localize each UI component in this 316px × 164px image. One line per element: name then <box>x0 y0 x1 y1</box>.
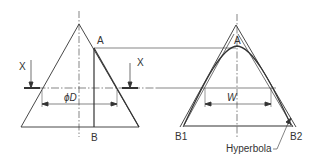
hyperbola-curve <box>184 46 291 125</box>
label-x-right: X <box>137 57 144 68</box>
diameter-arrow-right <box>111 102 117 106</box>
width-arrow-right <box>265 102 271 106</box>
width-arrow-left <box>205 102 211 106</box>
label-b-left: B <box>91 132 98 143</box>
label-diameter: ϕD <box>64 92 77 103</box>
label-a-left: A <box>97 35 104 46</box>
hyperbola-leader <box>273 121 289 149</box>
right-labels: A B1 B2 W Hyperbola <box>175 35 303 154</box>
label-width: W <box>227 92 238 103</box>
left-view <box>21 11 276 137</box>
cone-hyperbola-diagram: A B X X ϕD A B1 B2 W Hyperbola <box>0 0 316 164</box>
left-cone-outline <box>21 24 139 127</box>
label-b2: B2 <box>290 131 303 142</box>
diameter-arrow-left <box>42 102 48 106</box>
label-a-right: A <box>234 35 241 46</box>
label-hyperbola: Hyperbola <box>226 143 272 154</box>
label-b1: B1 <box>175 131 188 142</box>
label-x-left: X <box>19 61 26 72</box>
